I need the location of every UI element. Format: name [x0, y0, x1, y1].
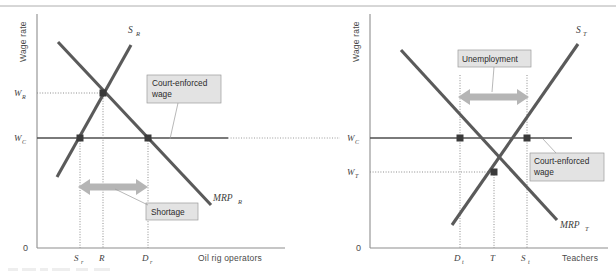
cropped-caption-smudge: [8, 268, 110, 271]
left-quantity-supplied-node: [77, 135, 84, 142]
right-y-tick-wt: W T: [347, 167, 359, 179]
svg-text:D: D: [141, 253, 149, 263]
left-quantity-demanded-node: [145, 135, 152, 142]
right-unemployment-arrow: [458, 89, 529, 105]
svg-text:Court-enforced: Court-enforced: [534, 156, 590, 166]
right-x-axis-label: Teachers: [562, 253, 598, 263]
svg-text:S: S: [74, 253, 79, 263]
left-demand-curve: [58, 42, 211, 205]
svg-text:MRP: MRP: [212, 193, 233, 203]
left-court-wage-leader: [170, 103, 178, 139]
left-demand-curve-label: MRP R: [212, 193, 242, 205]
left-y-axis-label: Wage rate: [18, 21, 28, 62]
svg-text:S: S: [576, 25, 581, 35]
svg-text:S: S: [521, 253, 526, 263]
svg-text:T: T: [490, 253, 496, 263]
right-quantity-demanded-node: [457, 135, 464, 142]
left-origin-label: 0: [23, 243, 28, 253]
svg-text:MRP: MRP: [559, 220, 580, 230]
left-shortage-arrow: [78, 179, 148, 195]
left-x-tick-dr: D r: [141, 253, 153, 265]
left-y-tick-wr: W R: [14, 88, 26, 100]
svg-text:Unemployment: Unemployment: [462, 54, 518, 64]
svg-text:T: T: [585, 225, 589, 232]
right-equilibrium-node: [491, 169, 498, 176]
left-supply-curve-label: S R: [128, 25, 140, 37]
svg-text:wage: wage: [151, 89, 172, 99]
svg-text:C: C: [22, 139, 27, 145]
right-x-tick-t: T: [490, 253, 496, 263]
svg-text:r: r: [150, 259, 153, 265]
right-court-wage-leader: [543, 139, 556, 153]
right-y-axis-label: Wage rate: [351, 21, 361, 62]
left-shortage-leader: [115, 189, 148, 205]
svg-text:D: D: [453, 253, 461, 263]
right-supply-curve-label: S T: [576, 25, 587, 37]
svg-text:r: r: [81, 259, 84, 265]
svg-text:S: S: [128, 25, 133, 35]
right-y-tick-wc: W C: [347, 133, 360, 145]
svg-text:T: T: [355, 173, 359, 179]
left-y-tick-wc: W C: [14, 133, 27, 145]
svg-text:R: R: [98, 253, 105, 263]
svg-text:T: T: [583, 30, 587, 37]
right-court-enforced-wage-callout: Court-enforced wage: [530, 139, 604, 181]
svg-text:R: R: [135, 30, 140, 37]
svg-text:wage: wage: [533, 167, 554, 177]
right-unemployment-leader: [492, 67, 494, 92]
right-supply-curve: [452, 44, 578, 225]
right-origin-label: 0: [356, 243, 361, 253]
left-equilibrium-node: [100, 90, 107, 97]
svg-text:t: t: [462, 259, 464, 265]
right-demand-curve: [401, 50, 557, 220]
svg-text:Court-enforced: Court-enforced: [152, 78, 208, 88]
left-supply-curve: [57, 45, 131, 177]
right-unemployment-callout: Unemployment: [458, 50, 531, 92]
svg-text:R: R: [21, 94, 26, 100]
svg-text:R: R: [237, 198, 242, 205]
right-x-tick-st: S t: [521, 253, 530, 265]
svg-text:t: t: [528, 259, 530, 265]
right-x-tick-dt: D t: [453, 253, 464, 265]
left-x-axis-label: Oil rig operators: [198, 253, 262, 263]
left-shortage-callout: Shortage: [115, 189, 198, 220]
svg-text:Shortage: Shortage: [151, 207, 185, 217]
svg-text:C: C: [355, 139, 360, 145]
oil-rig-operators-panel: Wage rate 0 S R MRP R W: [14, 14, 340, 265]
teachers-panel: Wage rate 0 S T MRP T W C: [347, 14, 608, 265]
comparative-labour-market-figure: Wage rate 0 S R MRP R W: [0, 0, 616, 274]
right-demand-curve-label: MRP T: [559, 220, 589, 232]
left-x-tick-r: R: [98, 253, 105, 263]
left-x-tick-sr: S r: [74, 253, 84, 265]
left-court-enforced-wage-callout: Court-enforced wage: [147, 75, 221, 139]
right-quantity-supplied-node: [524, 135, 531, 142]
